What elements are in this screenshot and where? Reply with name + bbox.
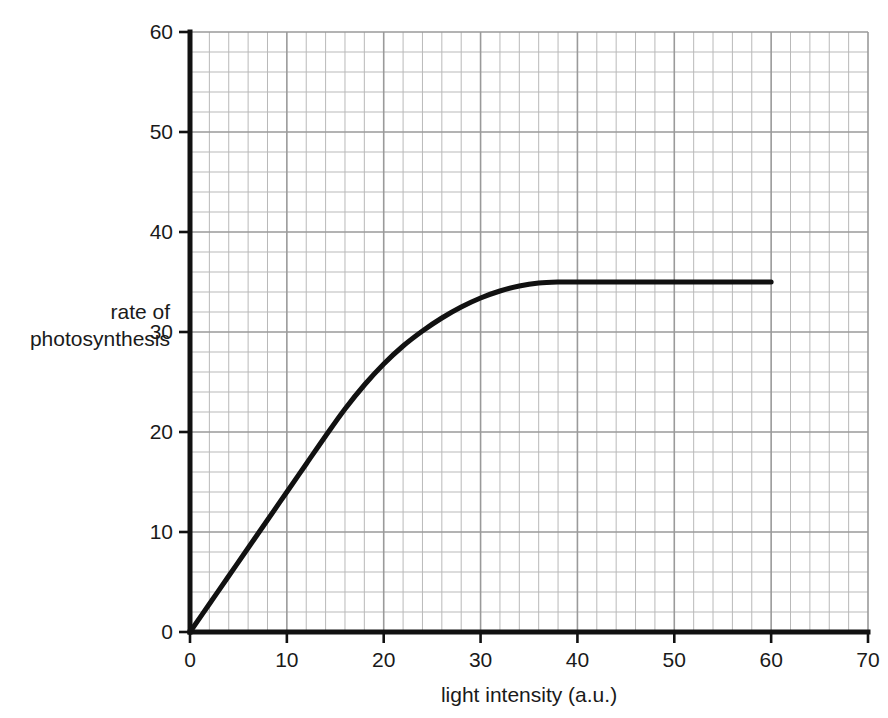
x-axis-tick-label: 30	[469, 648, 492, 671]
y-axis-tick-label: 60	[150, 20, 173, 43]
y-axis-tick-label: 40	[150, 220, 173, 243]
chart-figure: 0102030405060 010203040506070 rate of ph…	[0, 0, 888, 718]
y-axis-tick-label: 50	[150, 120, 173, 143]
x-axis-tick-label: 50	[663, 648, 686, 671]
x-axis-tick-label: 20	[372, 648, 395, 671]
y-axis-tick-label: 20	[150, 420, 173, 443]
x-axis-title: light intensity (a.u.)	[441, 683, 617, 706]
y-axis-tick-label: 10	[150, 520, 173, 543]
chart-background	[0, 0, 888, 718]
x-axis-tick-label: 70	[856, 648, 879, 671]
y-axis-title-line-2: photosynthesis	[30, 327, 170, 350]
x-axis-tick-label: 40	[566, 648, 589, 671]
y-axis-tick-label: 0	[161, 620, 173, 643]
photosynthesis-light-response-chart: 0102030405060 010203040506070 rate of ph…	[0, 0, 888, 718]
x-axis-tick-label: 60	[759, 648, 782, 671]
y-axis-title-line-1: rate of	[110, 300, 170, 323]
x-axis-tick-label: 0	[184, 648, 196, 671]
x-axis-tick-label: 10	[275, 648, 298, 671]
